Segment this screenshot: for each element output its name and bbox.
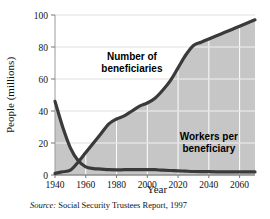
source-caption: Source: Social Security Trustees Report,… (30, 200, 270, 210)
x-axis-title: Year (147, 183, 168, 195)
x-tick-label: 2060 (230, 180, 249, 190)
figure-container: 0204060801001940196019802000202020402060… (0, 0, 270, 219)
y-axis-title: People (millions) (4, 57, 17, 133)
x-tick-label: 2020 (169, 180, 188, 190)
y-tick-label: 0 (43, 171, 48, 181)
y-tick-label: 20 (39, 139, 49, 149)
social-security-area-chart: 0204060801001940196019802000202020402060… (0, 0, 270, 195)
source-prefix: Source: (30, 200, 56, 210)
x-tick-label: 1940 (46, 180, 65, 190)
annotation-line-2: beneficiary (182, 143, 235, 154)
y-tick-label: 40 (39, 107, 49, 117)
x-tick-label: 1980 (107, 180, 126, 190)
x-tick-label: 1960 (76, 180, 95, 190)
chart-plot-area: 0204060801001940196019802000202020402060… (0, 0, 270, 195)
annotation-line-1: Number of (107, 51, 158, 62)
y-tick-label: 60 (39, 75, 49, 85)
y-tick-label: 80 (39, 43, 49, 53)
annotation-line-1: Workers per (180, 131, 238, 142)
annotation-line-2: beneficiaries (101, 63, 163, 74)
source-text: Social Security Trustees Report, 1997 (58, 200, 187, 210)
x-tick-label: 2040 (199, 180, 218, 190)
y-tick-label: 100 (34, 11, 49, 21)
